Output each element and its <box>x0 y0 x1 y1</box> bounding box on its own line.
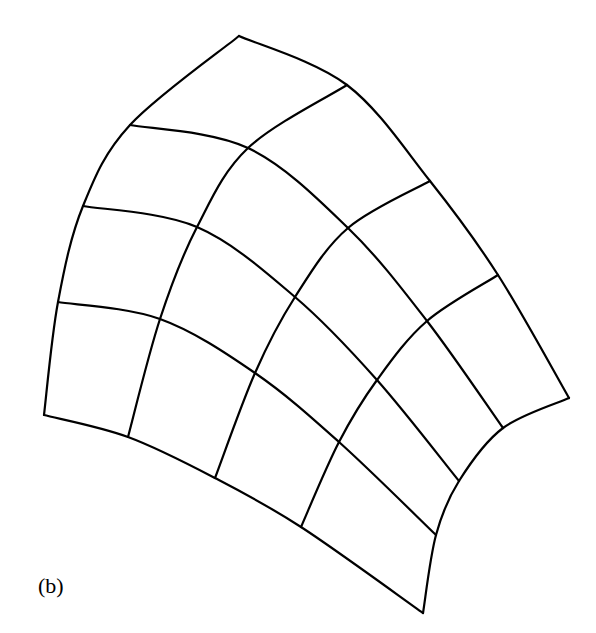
column-curves <box>44 36 569 613</box>
row-curve-1 <box>130 125 503 428</box>
row-curve-3 <box>58 302 436 535</box>
figure-label: (b) <box>38 573 64 599</box>
surface-grid-figure <box>0 0 596 633</box>
column-curve-0 <box>44 36 239 415</box>
row-curve-2 <box>83 206 459 481</box>
column-curve-1 <box>128 85 347 437</box>
column-curve-3 <box>301 275 498 527</box>
column-curve-2 <box>215 181 430 478</box>
column-curve-4 <box>423 398 569 613</box>
row-curve-4 <box>44 415 423 613</box>
row-curves <box>44 36 569 613</box>
